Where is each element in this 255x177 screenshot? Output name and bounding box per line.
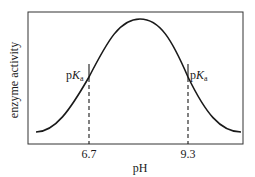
x-tick-6-7: 6.7	[82, 147, 97, 161]
y-axis-label: enzyme activity	[7, 42, 21, 118]
x-tick-9-3: 9.3	[181, 147, 196, 161]
x-axis-label: pH	[133, 161, 148, 175]
pka-label-left: pKa	[66, 68, 84, 83]
enzyme-activity-diagram: pKa pKa 6.7 9.3 pH enzyme activity	[0, 0, 255, 177]
pka-label-right: pKa	[190, 68, 208, 83]
plot-frame	[28, 12, 243, 144]
